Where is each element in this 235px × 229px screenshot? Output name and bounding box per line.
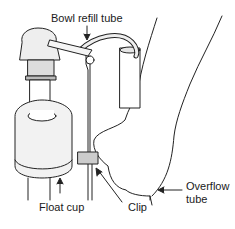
- label-overflow-line2: tube: [186, 193, 207, 205]
- clip: [78, 152, 98, 164]
- label-clip: Clip: [128, 201, 147, 213]
- diagram-root: Bowl refill tube Float cup Clip Overflow…: [0, 0, 235, 229]
- label-overflow-line1: Overflow: [186, 180, 229, 192]
- label-float-cup: Float cup: [39, 201, 84, 213]
- label-bowl-refill-tube: Bowl refill tube: [51, 12, 123, 24]
